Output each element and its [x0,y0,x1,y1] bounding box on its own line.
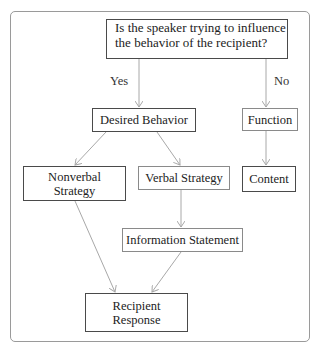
arrow-information-to-recipient [152,252,181,292]
yes-label: Yes [110,74,128,89]
nonverbal-strategy-box: Nonverbal Strategy [23,166,126,201]
content-box: Content [242,166,296,192]
recipient-label-line-1: Recipient [113,299,161,313]
information-statement-box: Information Statement [122,228,243,252]
recipient-response-box: Recipient Response [85,293,188,332]
question-box: Is the speaker trying to influence the b… [106,19,288,59]
content-label: Content [249,172,289,186]
verbal-strategy-label: Verbal Strategy [145,171,222,185]
question-line-1: Is the speaker trying to influence [115,20,286,35]
verbal-strategy-box: Verbal Strategy [138,166,230,190]
recipient-label-line-2: Response [113,313,161,327]
arrow-desired-to-nonverbal [75,132,106,165]
no-label: No [274,74,289,89]
function-box: Function [242,108,298,131]
desired-behavior-box: Desired Behavior [92,108,196,132]
function-label: Function [248,113,292,127]
arrow-desired-to-verbal [157,132,180,165]
desired-behavior-label: Desired Behavior [100,113,188,127]
question-line-2: the behavior of the recipient? [115,35,267,50]
nonverbal-label-line-2: Strategy [54,184,96,198]
nonverbal-label-line-1: Nonverbal [48,170,101,184]
arrow-nonverbal-to-recipient [75,201,115,292]
information-statement-label: Information Statement [126,233,239,247]
